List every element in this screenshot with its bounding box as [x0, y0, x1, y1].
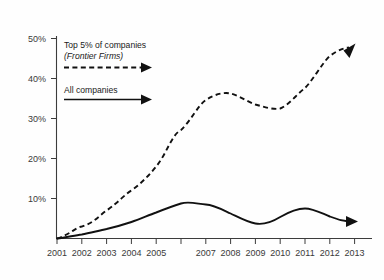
- x-tick-label: 2011: [295, 248, 314, 258]
- x-axis-ticks: [57, 239, 355, 245]
- x-tick-label: 2003: [97, 248, 117, 258]
- series-line-top-5-percent: [57, 48, 349, 239]
- y-axis-labels: 50% 40% 30% 20% 10%: [28, 34, 46, 204]
- y-tick-label: 10%: [28, 194, 46, 204]
- x-tick-label: 2004: [121, 248, 141, 258]
- y-tick-label: 30%: [28, 114, 46, 124]
- x-tick-label: 2001: [47, 248, 67, 258]
- y-tick-label: 50%: [28, 34, 46, 44]
- series-line-all-companies: [57, 203, 349, 239]
- x-tick-label: 2002: [72, 248, 92, 258]
- x-tick-label: 2012: [320, 248, 340, 258]
- series-arrowhead-all-companies: [346, 216, 358, 227]
- legend-item-top-5-percent: Top 5% of companies (Frontier Firms): [64, 40, 152, 73]
- x-tick-label: 2007: [196, 248, 216, 258]
- y-tick-label: 40%: [28, 74, 46, 84]
- series-arrowhead-top-5-percent: [344, 44, 356, 59]
- y-tick-label: 20%: [28, 154, 46, 164]
- legend-item-all-companies: All companies: [64, 85, 152, 105]
- x-tick-label: 2010: [270, 248, 290, 258]
- x-tick-label: 2005: [146, 248, 166, 258]
- legend-arrowhead-solid-icon: [141, 95, 152, 105]
- y-axis-ticks: [51, 39, 57, 199]
- line-chart: 50% 40% 30% 20% 10% 2001 2002 2003: [0, 0, 384, 280]
- x-tick-label: 2013: [345, 248, 365, 258]
- legend-label-all-companies: All companies: [64, 85, 118, 95]
- x-tick-label: 2008: [221, 248, 241, 258]
- legend-label-top-5-percent-line2: (Frontier Firms): [64, 51, 123, 61]
- x-tick-label: 2009: [245, 248, 265, 258]
- legend-label-top-5-percent-line1: Top 5% of companies: [64, 40, 146, 50]
- legend-arrowhead-dashed-icon: [141, 63, 152, 73]
- chart-container: 50% 40% 30% 20% 10% 2001 2002 2003: [0, 0, 384, 280]
- x-axis-labels: 2001 2002 2003 2004 2005 2007 2008 2009 …: [47, 248, 365, 258]
